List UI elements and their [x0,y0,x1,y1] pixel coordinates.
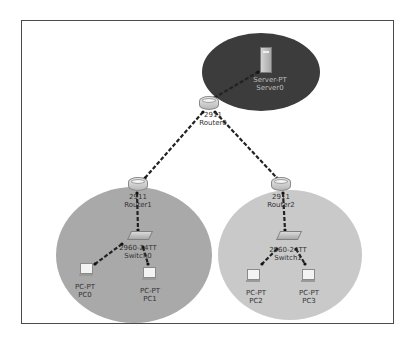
pc1-label: PC-PT PC1 [120,287,180,303]
pc3-name: PC3 [279,297,339,305]
link-endpoint-dot [146,262,149,265]
pc0-name: PC0 [55,291,115,299]
server0-name: Server0 [240,84,300,92]
router2-model: 2911 [251,193,311,201]
switch1-icon[interactable] [276,231,302,240]
switch1-model: 2960-24TT [258,246,318,254]
server0-label: Server-PT Server0 [240,76,300,92]
link-endpoint-dot [303,262,306,265]
link-endpoint-dot [93,262,96,265]
router1-model: 2911 [108,193,168,201]
pc2-label: PC-PT PC2 [226,289,286,305]
switch0-name: Switch0 [108,252,168,260]
link-endpoint-dot [260,262,263,265]
server0-icon[interactable] [260,47,272,73]
pc1-icon[interactable] [143,267,156,278]
pc2-model: PC-PT [226,289,286,297]
switch0-label: 2960-24TT Switch0 [108,244,168,260]
router0-name: Router0 [183,119,243,127]
router0-icon[interactable] [199,96,219,110]
pc0-icon[interactable] [80,263,93,274]
router0-model: 2911 [183,111,243,119]
switch0-model: 2960-24TT [108,244,168,252]
pc2-icon[interactable] [247,269,260,280]
pc3-model: PC-PT [279,289,339,297]
pc1-name: PC1 [120,295,180,303]
pc1-model: PC-PT [120,287,180,295]
switch1-label: 2960-24TT Switch1 [258,246,318,262]
router2-label: 2911 Router2 [251,193,311,209]
switch1-name: Switch1 [258,254,318,262]
router1-name: Router1 [108,201,168,209]
pc0-model: PC-PT [55,283,115,291]
router2-name: Router2 [251,201,311,209]
router2-icon[interactable] [271,177,291,191]
switch0-icon[interactable] [127,231,153,240]
router1-icon[interactable] [128,177,148,191]
pc2-name: PC2 [226,297,286,305]
pc3-icon[interactable] [302,269,315,280]
server0-model: Server-PT [240,76,300,84]
pc3-label: PC-PT PC3 [279,289,339,305]
router0-label: 2911 Router0 [183,111,243,127]
pc0-label: PC-PT PC0 [55,283,115,299]
router1-label: 2911 Router1 [108,193,168,209]
